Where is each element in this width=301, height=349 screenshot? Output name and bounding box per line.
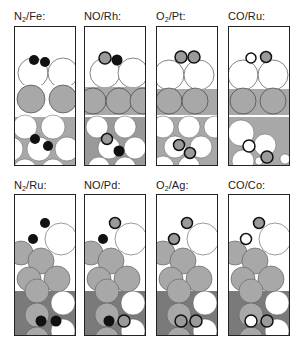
o2-pt-structure bbox=[157, 27, 217, 165]
o-atom bbox=[190, 315, 202, 327]
c-atom bbox=[243, 140, 255, 152]
o-atom bbox=[182, 218, 193, 229]
n-atom bbox=[114, 146, 125, 157]
o-atom bbox=[261, 52, 272, 63]
n2-fe-structure bbox=[15, 27, 75, 165]
panel-label-n2-fe: N2/Fe: bbox=[14, 10, 45, 23]
n2-ru-structure bbox=[15, 195, 75, 335]
n-atom bbox=[40, 57, 50, 67]
panel-label-o2-ag: O2/Ag: bbox=[156, 179, 189, 192]
n-atom bbox=[40, 218, 50, 228]
o-atom bbox=[118, 315, 130, 327]
panel-co-co bbox=[228, 194, 290, 336]
panel-no-pd bbox=[84, 194, 146, 336]
o-atom bbox=[188, 51, 200, 63]
n-atom bbox=[36, 316, 47, 327]
n-atom bbox=[30, 134, 40, 144]
co-ru-structure bbox=[229, 27, 289, 165]
panel-n2-ru bbox=[14, 194, 76, 336]
o-atom bbox=[185, 148, 196, 159]
panel-label-co-ru: CO/Ru: bbox=[228, 10, 265, 22]
panel-n2-fe bbox=[14, 26, 76, 166]
o2-ag-structure bbox=[157, 195, 217, 335]
panel-label-no-rh: NO/Rh: bbox=[84, 10, 121, 22]
o-atom bbox=[174, 140, 185, 151]
n-atom bbox=[43, 141, 53, 151]
o-atom bbox=[169, 234, 180, 245]
n-atom bbox=[29, 55, 39, 65]
panel-o2-ag bbox=[156, 194, 218, 336]
o-atom bbox=[261, 151, 273, 163]
n-atom bbox=[104, 316, 115, 327]
panel-label-n2-ru: N2/Ru: bbox=[14, 179, 47, 192]
n-atom bbox=[28, 234, 38, 244]
panel-co-ru bbox=[228, 26, 290, 166]
panel-label-co-co: CO/Co: bbox=[228, 179, 265, 191]
o-atom bbox=[254, 218, 265, 229]
o-atom bbox=[99, 52, 111, 64]
panel-no-rh bbox=[84, 26, 146, 166]
panel-label-o2-pt: O2/Pt: bbox=[156, 10, 186, 23]
panel-label-no-pd: NO/Pd: bbox=[84, 179, 121, 191]
c-atom bbox=[245, 315, 257, 327]
n-atom bbox=[112, 55, 123, 66]
c-atom bbox=[246, 53, 256, 63]
o-atom bbox=[261, 315, 273, 327]
o-atom bbox=[110, 218, 121, 229]
o-atom bbox=[175, 315, 187, 327]
n-atom bbox=[51, 316, 62, 327]
o-atom bbox=[175, 51, 187, 63]
co-co-structure bbox=[229, 195, 289, 335]
c-atom bbox=[241, 234, 252, 245]
o-atom bbox=[102, 134, 113, 145]
n-atom bbox=[98, 234, 108, 244]
panel-o2-pt bbox=[156, 26, 218, 166]
no-rh-structure bbox=[85, 27, 145, 165]
no-pd-structure bbox=[85, 195, 145, 335]
